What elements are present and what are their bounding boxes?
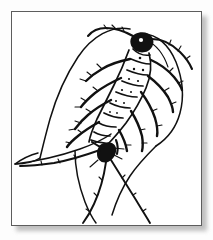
illustration-caption [11, 232, 202, 238]
cercus-right [111, 160, 150, 223]
illustration-plate [12, 12, 201, 225]
cercus-left [20, 150, 100, 166]
illustration-page [0, 0, 213, 240]
image-frame [11, 11, 202, 226]
cercus-center [83, 162, 106, 223]
silverfish-drawing [12, 12, 201, 225]
legs-right [119, 60, 183, 151]
